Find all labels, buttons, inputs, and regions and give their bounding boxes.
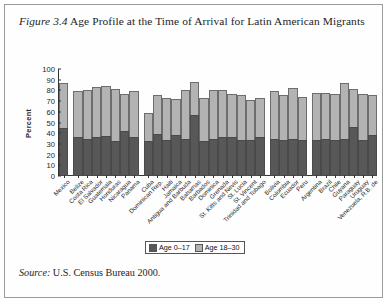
bar-segment-age-0-17 [255, 137, 264, 176]
bar-segment-age-0-17 [59, 128, 68, 176]
bar-stack [358, 94, 367, 176]
bar-stack [288, 88, 297, 176]
legend-swatch [195, 244, 203, 252]
bar-segment-age-0-17 [162, 140, 171, 176]
figure-number: Figure 3.4 [19, 15, 68, 27]
bar-segment-age-0-17 [340, 139, 349, 176]
y-axis-ticks: 0102030405060708090100 [34, 60, 58, 235]
bar-segment-age-0-17 [279, 140, 288, 176]
bar-stack [190, 82, 199, 176]
source-text: U.S. Census Bureau 2000. [50, 267, 160, 278]
bar-series-container [59, 69, 377, 176]
bar-stack [181, 90, 190, 176]
y-axis-tick-label: 0 [34, 172, 58, 181]
bar-stack [162, 98, 171, 176]
legend-item: Age 0–17 [149, 243, 190, 252]
chart-axes: 0102030405060708090100 MexicoBelizeCosta… [34, 60, 378, 235]
bar-stack [321, 93, 330, 176]
figure-caption: Figure 3.4 Age Profile at the Time of Ar… [19, 15, 367, 28]
bar-segment-age-0-17 [111, 141, 120, 176]
bar-segment-age-0-17 [153, 134, 162, 176]
bar-segment-age-0-17 [120, 131, 129, 176]
y-axis-tick-mark [58, 176, 61, 177]
bar-segment-age-0-17 [83, 139, 92, 176]
bar-stack [227, 94, 236, 176]
chart-legend: Age 0–17Age 18–30 [145, 241, 245, 254]
bar-stack [298, 97, 307, 176]
bar-stack [237, 95, 246, 176]
bar-segment-age-0-17 [144, 141, 153, 176]
source-label: Source: [19, 267, 50, 278]
y-axis-tick-mark [58, 111, 61, 112]
bar-stack [312, 93, 321, 176]
y-axis-tick-mark [58, 79, 61, 80]
y-axis-tick-mark [58, 143, 61, 144]
y-axis-tick-label: 30 [34, 139, 58, 148]
x-axis-tick-mark [284, 175, 285, 178]
bar-stack [120, 94, 129, 176]
x-axis-tick-mark [97, 175, 98, 178]
bar-segment-age-0-17 [349, 127, 358, 176]
bar-segment-age-0-17 [190, 115, 199, 176]
bar-segment-age-0-17 [129, 137, 138, 176]
bar-segment-age-0-17 [227, 137, 236, 176]
bar-segment-age-0-17 [181, 139, 190, 176]
x-axis-tick-mark [125, 175, 126, 178]
bar-stack [144, 113, 153, 176]
bar-stack [279, 95, 288, 176]
y-axis-tick-label: 40 [34, 129, 58, 138]
bar-stack [171, 99, 180, 176]
bar-segment-age-0-17 [270, 139, 279, 176]
figure-source: Source: U.S. Census Bureau 2000. [19, 267, 160, 278]
y-axis-tick-label: 80 [34, 86, 58, 95]
y-axis-tick-mark [58, 154, 61, 155]
y-axis-tick-label: 20 [34, 150, 58, 159]
bar-segment-age-0-17 [358, 140, 367, 176]
bar-segment-age-0-17 [237, 140, 246, 176]
y-axis-tick-mark [58, 90, 61, 91]
y-axis-tick-mark [58, 133, 61, 134]
legend-label: Age 0–17 [159, 243, 190, 252]
y-axis-tick-mark [58, 101, 61, 102]
bar-segment-age-0-17 [288, 139, 297, 176]
bar-stack [111, 89, 120, 176]
bar-stack [83, 90, 92, 176]
bar-segment-age-0-17 [73, 137, 82, 176]
y-axis-tick-label: 50 [34, 118, 58, 127]
bar-segment-age-0-17 [321, 139, 330, 176]
bar-stack [59, 83, 68, 176]
legend-label: Age 18–30 [205, 243, 240, 252]
y-axis-tick-label: 90 [34, 75, 58, 84]
bar-segment-age-0-17 [199, 141, 208, 176]
y-axis-tick-label: 10 [34, 161, 58, 170]
bar-stack [153, 95, 162, 176]
x-axis-tick-mark [251, 175, 252, 178]
bar-stack [255, 98, 264, 176]
y-axis-tick-label: 70 [34, 97, 58, 106]
bar-stack [270, 91, 279, 176]
bar-segment-age-0-17 [246, 140, 255, 176]
bar-stack [330, 94, 339, 176]
bar-segment-age-0-17 [171, 135, 180, 176]
bar-stack [209, 90, 218, 176]
y-axis-tick-mark [58, 122, 61, 123]
chart-plot-area: Percent 0102030405060708090100 MexicoBel… [26, 60, 378, 235]
figure-panel: Figure 3.4 Age Profile at the Time of Ar… [4, 4, 383, 298]
bar-segment-age-0-17 [312, 140, 321, 176]
y-axis-label: Percent [24, 109, 33, 138]
bar-segment-age-0-17 [209, 139, 218, 176]
bar-segment-age-0-17 [368, 135, 377, 176]
bar-segment-age-0-17 [101, 136, 110, 176]
figure-caption-text: Age Profile at the Time of Arrival for L… [68, 15, 365, 27]
y-axis-tick-label: 100 [34, 65, 58, 74]
bar-stack [368, 95, 377, 176]
y-axis-tick-label: 60 [34, 107, 58, 116]
bar-segment-age-0-17 [330, 140, 339, 176]
bar-stack [349, 89, 358, 176]
legend-item: Age 18–30 [195, 243, 240, 252]
bar-stack [129, 91, 138, 176]
y-axis-tick-mark [58, 165, 61, 166]
bar-stack [73, 91, 82, 176]
bar-stack [218, 90, 227, 176]
bar-stack [199, 98, 208, 176]
